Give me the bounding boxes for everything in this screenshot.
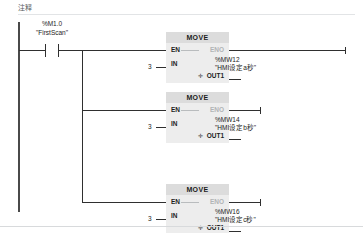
move-block-1-pin-en[interactable]: EN [171, 46, 180, 53]
move-block-3-in-stub [156, 219, 166, 220]
move-block-2-out-expand-icon[interactable]: ✛ [198, 132, 203, 140]
rung-wire-rail-to-contact [19, 50, 45, 51]
move-block-2-in-value[interactable]: 3 [148, 123, 152, 130]
move-block-1-title: MOVE [166, 32, 229, 43]
move-block-2-pin-eno[interactable]: ENO [210, 106, 224, 113]
move-block-3-eno-wire [229, 202, 260, 203]
move-block-3-pin-en[interactable]: EN [171, 198, 180, 205]
move-block-3-eno-terminator [260, 199, 261, 206]
branch-wire-block2 [82, 110, 166, 111]
contact-symbol: "FirstScan" [36, 29, 68, 36]
move-block-2-out-symbol[interactable]: "HMI设定b秒" [215, 124, 256, 133]
branch-wire-block3 [82, 202, 166, 203]
contact-address-label: %M1.0 [28, 20, 76, 29]
move-block-1-out-symbol[interactable]: "HMI设定a秒" [215, 64, 256, 73]
move-block-1-pin-out[interactable]: OUT1 [207, 72, 224, 79]
comment-underline [18, 14, 355, 15]
move-block-1-out-stub [229, 79, 241, 80]
move-block-2-title: MOVE [166, 92, 229, 103]
bottom-divider [0, 226, 363, 227]
move-block-2-pin-out[interactable]: OUT1 [207, 132, 224, 139]
move-block-3-in-value[interactable]: 3 [148, 215, 152, 222]
move-block-3-title: MOVE [166, 184, 229, 195]
move-block-3-out-stub [229, 231, 241, 232]
move-block-2-eno-wire [229, 110, 260, 111]
move-block-3-pin-eno[interactable]: ENO [210, 198, 224, 205]
move-block-2-in-stub [156, 127, 166, 128]
move-block-2-pin-en[interactable]: EN [171, 106, 180, 113]
move-block-1-in-value[interactable]: 3 [148, 63, 152, 70]
move-block-3-out-symbol[interactable]: "HMI设定c秒" [215, 216, 256, 225]
move-block-2-en-eno-link [181, 110, 199, 111]
contact-address: %M1.0 [42, 20, 62, 27]
rung-end-terminator [345, 47, 346, 54]
move-block-1-eno-wire [229, 50, 345, 51]
network-comment[interactable]: 注释 [18, 2, 32, 12]
move-block-1-in-stub [156, 67, 166, 68]
rung-wire-contact-to-branch [59, 50, 166, 51]
move-block-3-en-eno-link [181, 202, 199, 203]
move-block-2-eno-terminator [260, 107, 261, 114]
branch-trunk-vertical [82, 50, 83, 202]
move-block-2-pin-in[interactable]: IN [171, 120, 178, 127]
contact-symbol-label: "FirstScan" [28, 29, 76, 38]
move-block-3-pin-in[interactable]: IN [171, 212, 178, 219]
move-block-1-out-expand-icon[interactable]: ✛ [198, 72, 203, 80]
move-block-1-pin-eno[interactable]: ENO [210, 46, 224, 53]
move-block-1-pin-in[interactable]: IN [171, 60, 178, 67]
contact-bar-left [45, 44, 46, 57]
move-block-2-out-stub [229, 139, 241, 140]
ladder-network-canvas[interactable]: %M1.0 "FirstScan" MOVE EN ENO IN ✛ OUT1 … [0, 16, 363, 221]
contact-firstscan[interactable] [45, 44, 59, 57]
move-block-1-en-eno-link [181, 50, 199, 51]
